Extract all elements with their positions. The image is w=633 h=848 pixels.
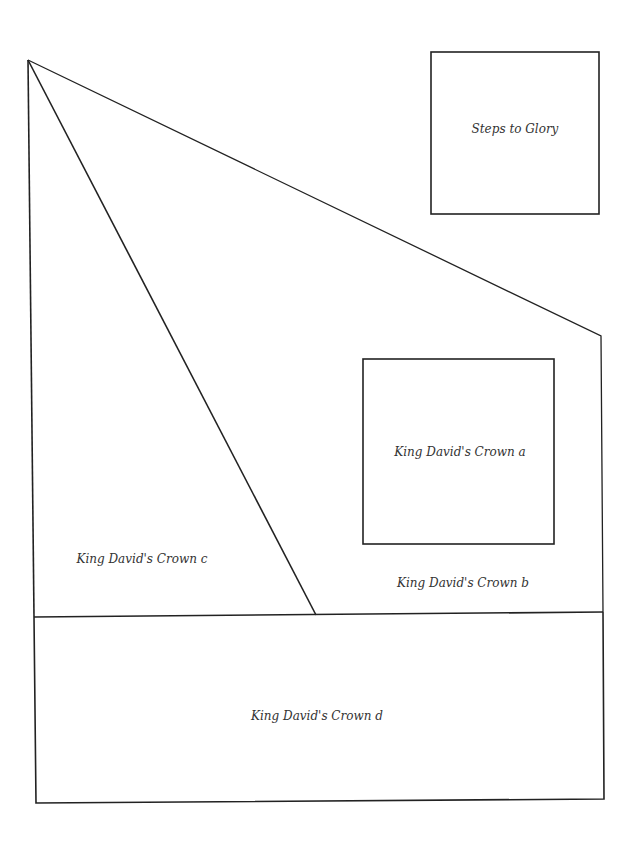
quilt-pattern-diagram: Steps to Glory King David's Crown a King… — [0, 0, 633, 848]
piece-steps-label: Steps to Glory — [472, 122, 559, 136]
piece-c-label: King David's Crown c — [75, 552, 207, 566]
piece-b-label: King David's Crown b — [396, 576, 529, 590]
diagonal-divider — [28, 60, 316, 615]
piece-d-label: King David's Crown d — [250, 709, 383, 723]
outer-slant-edge — [28, 60, 603, 612]
horizontal-divider — [34, 612, 603, 617]
left-edge — [28, 60, 34, 617]
piece-d-outline — [34, 612, 604, 803]
piece-a-label: King David's Crown a — [393, 445, 525, 459]
